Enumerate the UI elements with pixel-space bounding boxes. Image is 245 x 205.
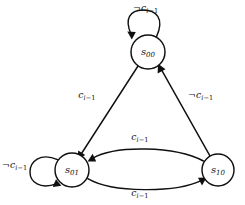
condition-subscript: i−1 (137, 136, 149, 144)
edge-label-s01-to-s10: ci−1 (131, 188, 148, 199)
edge-s10-to-s01 (88, 149, 204, 162)
edge-s10-to-s00 (158, 64, 210, 156)
self-loop-s00-arrowhead (127, 32, 136, 40)
edge-s10-to-s01-curve (93, 149, 204, 161)
edge-label-s10-to-s01: ci−1 (131, 132, 148, 143)
condition-subscript: i−1 (146, 7, 158, 15)
edge-s10-to-s00-line (161, 70, 209, 156)
edge-s00-to-s01-line (81, 66, 138, 154)
edge-label-s10-to-s00: ¬ci−1 (188, 90, 213, 101)
state-transition-diagram: s00 s01 s10 ¬ci−1 ci−1 ¬ci−1 ¬ci−1 ci−1 … (0, 0, 245, 205)
negation-symbol: ¬ (133, 2, 141, 13)
edge-label-s00-self-loop: ¬ci−1 (133, 3, 158, 14)
node-s01-circle[interactable] (55, 153, 89, 187)
edge-s00-to-s01 (78, 66, 138, 160)
negation-symbol: ¬ (188, 89, 196, 100)
edge-label-s00-to-s01: ci−1 (78, 90, 95, 101)
fsm-canvas (0, 0, 245, 205)
self-loop-s01-arc (30, 157, 58, 186)
node-s00-circle[interactable] (131, 35, 165, 69)
negation-symbol: ¬ (2, 159, 10, 170)
condition-subscript: i−1 (201, 94, 213, 102)
condition-subscript: i−1 (15, 164, 27, 172)
node-s10-circle[interactable] (202, 154, 234, 186)
condition-subscript: i−1 (84, 94, 96, 102)
edge-label-s01-self-loop: ¬ci−1 (2, 160, 27, 171)
condition-subscript: i−1 (137, 192, 149, 200)
